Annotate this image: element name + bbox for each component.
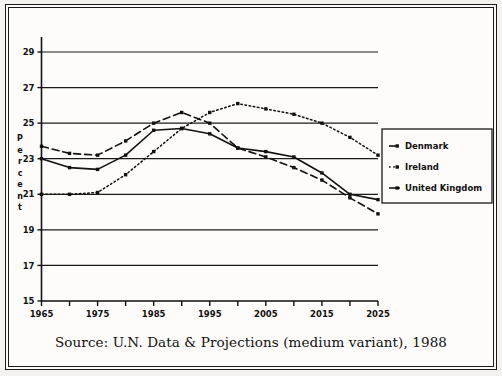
axis-ticks (38, 52, 379, 306)
y-tick-label: 23 (23, 154, 35, 164)
data-point-marker (292, 113, 295, 116)
data-point-marker (124, 153, 127, 156)
source-caption: Source: U.N. Data & Projections (medium … (0, 334, 502, 350)
legend-marker-icon (396, 165, 399, 168)
data-point-marker (124, 173, 127, 176)
data-point-marker (348, 193, 351, 196)
data-point-marker (40, 145, 43, 148)
y-axis-title-char: e (17, 146, 23, 155)
x-tick-label: 2005 (254, 309, 278, 319)
chart-page: 1517192123252729 19651975198519952005201… (0, 0, 502, 376)
data-point-marker (292, 166, 295, 169)
y-axis-title-char: n (17, 192, 23, 201)
y-tick-label: 25 (23, 118, 35, 128)
x-tick-label: 2015 (310, 309, 334, 319)
x-tick-label: 1985 (142, 309, 166, 319)
data-point-marker (264, 155, 267, 158)
data-point-marker (208, 121, 211, 124)
data-point-marker (68, 166, 71, 169)
data-point-marker (152, 121, 155, 124)
x-tick-label: 1995 (198, 309, 222, 319)
data-point-marker (376, 212, 379, 215)
line-chart: 1517192123252729 19651975198519952005201… (0, 0, 502, 376)
y-axis-title-char: t (18, 203, 22, 212)
x-axis-tick-labels: 1965197519851995200520152025 (30, 309, 390, 319)
legend-label: United Kingdom (405, 183, 482, 193)
legend-marker-icon (396, 186, 399, 189)
data-point-marker (264, 107, 267, 110)
data-point-marker (348, 196, 351, 199)
data-point-marker (236, 146, 239, 149)
data-point-marker (96, 153, 99, 156)
data-point-marker (40, 157, 43, 160)
data-point-marker (320, 178, 323, 181)
data-point-marker (264, 150, 267, 153)
series-line-denmark (42, 112, 379, 213)
y-tick-label: 21 (23, 189, 35, 199)
data-point-marker (208, 132, 211, 135)
x-tick-label: 1975 (86, 309, 110, 319)
series-line-ireland (42, 104, 379, 195)
y-axis-title: Percent (17, 134, 23, 212)
data-point-marker (236, 102, 239, 105)
legend-marker-icon (396, 144, 399, 147)
x-tick-label: 1965 (30, 309, 54, 319)
data-point-marker (180, 111, 183, 114)
y-tick-label: 29 (23, 47, 35, 57)
data-point-marker (68, 152, 71, 155)
data-point-marker (208, 111, 211, 114)
data-point-marker (152, 129, 155, 132)
chart-legend[interactable]: DenmarkIrelandUnited Kingdom (382, 129, 492, 203)
y-axis-title-char: e (17, 180, 23, 189)
data-point-marker (96, 191, 99, 194)
y-axis-title-char: P (17, 134, 23, 143)
data-point-marker (124, 139, 127, 142)
data-point-marker (152, 150, 155, 153)
data-point-marker (376, 198, 379, 201)
series-line-united-kingdom (42, 128, 379, 199)
gridlines (42, 52, 379, 265)
y-tick-label: 19 (23, 225, 35, 235)
data-point-marker (180, 127, 183, 130)
y-tick-label: 17 (23, 261, 35, 271)
data-point-marker (376, 153, 379, 156)
data-point-marker (348, 136, 351, 139)
data-point-marker (68, 193, 71, 196)
y-tick-label: 27 (23, 83, 35, 93)
data-point-marker (96, 168, 99, 171)
y-axis-title-char: c (18, 169, 23, 178)
data-point-marker (292, 155, 295, 158)
data-point-marker (320, 121, 323, 124)
y-tick-label: 15 (23, 296, 35, 306)
legend-label: Ireland (405, 162, 439, 172)
y-axis-title-char: r (18, 157, 22, 166)
y-axis-tick-labels: 1517192123252729 (23, 47, 35, 306)
x-tick-label: 2025 (366, 309, 390, 319)
legend-label: Denmark (405, 141, 449, 151)
data-point-marker (40, 193, 43, 196)
data-point-marker (320, 171, 323, 174)
